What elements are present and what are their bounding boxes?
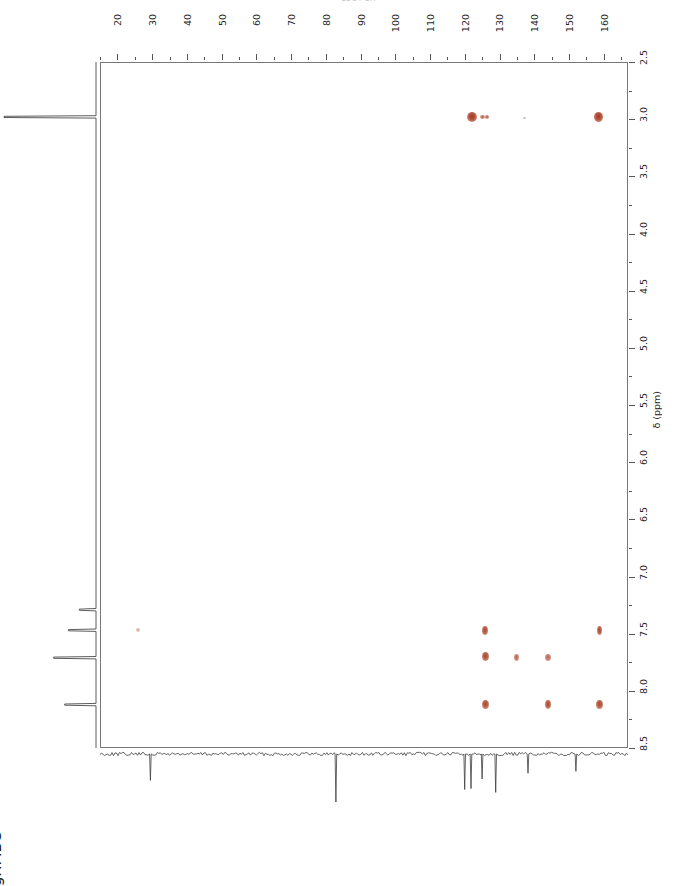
proton-axis-minor-tick bbox=[629, 719, 632, 720]
cross-peak[interactable] bbox=[594, 112, 604, 122]
carbon-axis-tick-label: 20 bbox=[112, 14, 123, 26]
proton-axis-minor-tick bbox=[629, 262, 632, 263]
carbon-axis-tick-label: 60 bbox=[251, 14, 262, 26]
nmr-figure-canvas: 13C / 1H gHMBC 2030405060708090100110120… bbox=[0, 0, 681, 886]
proton-axis-major-tick bbox=[629, 691, 635, 692]
proton-axis-tick-label: 3.0 bbox=[638, 107, 649, 122]
carbon-axis-minor-tick bbox=[378, 57, 379, 60]
proton-axis-major-tick bbox=[629, 462, 635, 463]
proton-axis-title: δ (ppm) bbox=[651, 391, 662, 429]
cross-peak[interactable] bbox=[482, 626, 488, 635]
cross-peak[interactable] bbox=[485, 115, 489, 119]
cross-peak[interactable] bbox=[514, 654, 519, 661]
cross-peak[interactable] bbox=[523, 117, 526, 120]
proton-axis-tick-label: 3.5 bbox=[638, 164, 649, 179]
carbon-axis-major-tick bbox=[361, 54, 362, 60]
proton-axis-minor-tick bbox=[629, 491, 632, 492]
proton-axis-minor-tick bbox=[629, 548, 632, 549]
proton-axis-minor-tick bbox=[629, 376, 632, 377]
cross-peak[interactable] bbox=[482, 700, 489, 709]
cross-peak[interactable] bbox=[545, 700, 551, 709]
carbon-axis-tick-label: 120 bbox=[460, 14, 471, 32]
cross-peak[interactable] bbox=[467, 112, 477, 122]
proton-axis-major-tick bbox=[629, 634, 635, 635]
carbon-axis-tick-label: 90 bbox=[356, 14, 367, 26]
proton-axis-minor-tick bbox=[629, 319, 632, 320]
carbon-axis-major-tick bbox=[187, 54, 188, 60]
proton-axis-minor-tick bbox=[629, 148, 632, 149]
carbon-axis-minor-tick bbox=[204, 57, 205, 60]
carbon-axis-minor-tick bbox=[135, 57, 136, 60]
proton-axis-tick-label: 6.5 bbox=[638, 507, 649, 522]
experiment-label: gHMBC bbox=[0, 832, 5, 886]
carbon-axis-minor-tick bbox=[621, 57, 622, 60]
carbon-axis-major-tick bbox=[256, 54, 257, 60]
carbon-axis-tick-label: 150 bbox=[564, 14, 575, 32]
carbon-projection-trace bbox=[100, 748, 628, 806]
proton-axis-major-tick bbox=[629, 234, 635, 235]
proton-axis-major-tick bbox=[629, 348, 635, 349]
clipped-title-text: 13C / 1H bbox=[341, 0, 376, 1]
carbon-axis-minor-tick bbox=[343, 57, 344, 60]
proton-axis-tick-label: 8.0 bbox=[638, 679, 649, 694]
spectrum-plot-area[interactable] bbox=[100, 62, 628, 748]
carbon-axis-tick-label: 110 bbox=[425, 14, 436, 32]
carbon-axis-major-tick bbox=[326, 54, 327, 60]
proton-axis-tick-label: 6.0 bbox=[638, 450, 649, 465]
proton-axis-tick-label: 8.5 bbox=[638, 736, 649, 751]
carbon-axis-tick-label: 40 bbox=[182, 14, 193, 26]
carbon-axis-tick-label: 100 bbox=[390, 14, 401, 32]
proton-axis-minor-tick bbox=[629, 662, 632, 663]
proton-axis-tick-label: 2.5 bbox=[638, 50, 649, 65]
carbon-axis-minor-tick bbox=[552, 57, 553, 60]
carbon-axis-minor-tick bbox=[413, 57, 414, 60]
carbon-axis-major-tick bbox=[152, 54, 153, 60]
proton-axis-tick-label: 7.0 bbox=[638, 565, 649, 580]
cross-peak[interactable] bbox=[596, 700, 603, 710]
cross-peak[interactable] bbox=[545, 654, 551, 661]
cross-peak[interactable] bbox=[136, 628, 140, 632]
carbon-axis-tick-label: 80 bbox=[321, 14, 332, 26]
proton-axis-tick-label: 5.0 bbox=[638, 336, 649, 351]
carbon-axis-minor-tick bbox=[482, 57, 483, 60]
proton-axis-minor-tick bbox=[629, 434, 632, 435]
carbon-axis-tick-label: 70 bbox=[286, 14, 297, 26]
carbon-axis-major-tick bbox=[117, 54, 118, 60]
proton-projection-path bbox=[4, 62, 96, 748]
proton-axis-tick-label: 5.5 bbox=[638, 393, 649, 408]
carbon-axis-major-tick bbox=[395, 54, 396, 60]
carbon-axis-tick-label: 140 bbox=[529, 14, 540, 32]
cross-peak[interactable] bbox=[482, 652, 489, 661]
proton-axis-minor-tick bbox=[629, 205, 632, 206]
cross-peak[interactable] bbox=[597, 626, 602, 635]
carbon-projection-path bbox=[100, 752, 628, 802]
carbon-axis-major-tick bbox=[534, 54, 535, 60]
proton-axis-major-tick bbox=[629, 519, 635, 520]
carbon-axis-minor-tick bbox=[274, 57, 275, 60]
proton-axis-major-tick bbox=[629, 291, 635, 292]
carbon-axis-minor-tick bbox=[308, 57, 309, 60]
proton-axis-major-tick bbox=[629, 748, 635, 749]
proton-projection-trace bbox=[0, 62, 100, 748]
carbon-axis-major-tick bbox=[465, 54, 466, 60]
proton-axis-minor-tick bbox=[629, 605, 632, 606]
carbon-axis-major-tick bbox=[291, 54, 292, 60]
carbon-axis-minor-tick bbox=[586, 57, 587, 60]
carbon-axis-major-tick bbox=[430, 54, 431, 60]
carbon-axis-minor-tick bbox=[517, 57, 518, 60]
proton-axis-tick-label: 4.0 bbox=[638, 222, 649, 237]
carbon-axis-minor-tick bbox=[170, 57, 171, 60]
proton-axis-tick-label: 7.5 bbox=[638, 622, 649, 637]
carbon-axis-major-tick bbox=[222, 54, 223, 60]
proton-axis-major-tick bbox=[629, 176, 635, 177]
carbon-axis-minor-tick bbox=[447, 57, 448, 60]
carbon-axis-major-tick bbox=[500, 54, 501, 60]
carbon-axis-major-tick bbox=[604, 54, 605, 60]
carbon-axis-tick-label: 160 bbox=[599, 14, 610, 32]
carbon-axis-tick-label: 50 bbox=[217, 14, 228, 26]
proton-axis-major-tick bbox=[629, 405, 635, 406]
proton-axis-major-tick bbox=[629, 62, 635, 63]
carbon-axis-minor-tick bbox=[100, 57, 101, 60]
proton-axis-major-tick bbox=[629, 119, 635, 120]
cross-peak[interactable] bbox=[480, 115, 485, 119]
